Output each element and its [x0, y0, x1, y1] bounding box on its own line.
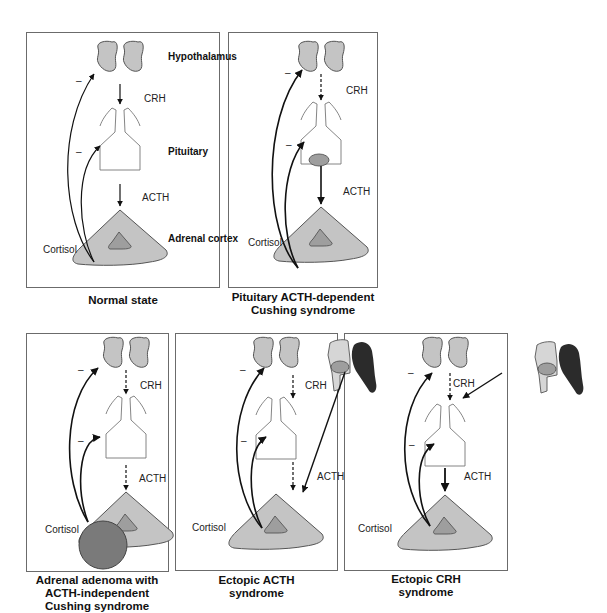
- svg-text:Cortisol: Cortisol: [192, 522, 226, 533]
- ectopic-crh-tumor-shape: [535, 342, 583, 395]
- hypothalamus-shape: [97, 41, 143, 71]
- diagram-normal-state: – – Hypothalamus CRH Pituitary ACTH Adre…: [43, 41, 238, 265]
- svg-text:ACTH: ACTH: [464, 471, 491, 482]
- svg-text:–: –: [285, 67, 291, 78]
- ectopic-tumor-shape: [328, 340, 376, 393]
- svg-text:Cortisol: Cortisol: [248, 237, 282, 248]
- svg-text:–: –: [409, 439, 415, 450]
- svg-text:Hypothalamus: Hypothalamus: [168, 51, 237, 62]
- adrenal-cortex-shape: [73, 210, 167, 265]
- svg-text:CRH: CRH: [346, 85, 368, 96]
- caption-adrenal-adenoma: Adrenal adenoma with ACTH-independent Cu…: [22, 574, 172, 613]
- diagram-ectopic-acth: – – CRH ACTH Cortisol: [192, 337, 376, 549]
- svg-text:ACTH: ACTH: [343, 186, 370, 197]
- svg-text:CRH: CRH: [453, 378, 475, 389]
- svg-text:ACTH: ACTH: [317, 471, 344, 482]
- caption-ectopic-acth: Ectopic ACTH syndrome: [175, 574, 338, 600]
- svg-text:–: –: [241, 435, 247, 446]
- svg-text:CRH: CRH: [140, 380, 162, 391]
- diagram-ectopic-crh: – – CRH ACTH Cortisol: [358, 337, 583, 550]
- svg-text:–: –: [286, 139, 292, 150]
- diagram-adrenal-adenoma: – – CRH ACTH Cortisol: [45, 337, 173, 569]
- svg-text:ACTH: ACTH: [142, 192, 169, 203]
- caption-ectopic-crh: Ectopic CRH syndrome: [344, 573, 508, 599]
- svg-text:Adrenal cortex: Adrenal cortex: [168, 233, 238, 244]
- diagram-pituitary-cushing: – – CRH ACTH Cortisol: [248, 41, 370, 268]
- pituitary-adenoma-shape: [309, 154, 329, 166]
- svg-text:CRH: CRH: [305, 380, 327, 391]
- svg-text:–: –: [408, 367, 414, 378]
- svg-text:–: –: [76, 146, 82, 157]
- svg-text:–: –: [76, 75, 82, 86]
- svg-text:ACTH: ACTH: [139, 473, 166, 484]
- svg-text:Cortisol: Cortisol: [358, 523, 392, 534]
- pituitary-shape: [100, 108, 140, 170]
- adrenal-adenoma-shape: [79, 521, 127, 569]
- svg-text:Pituitary: Pituitary: [168, 146, 208, 157]
- svg-text:–: –: [78, 435, 84, 446]
- caption-pituitary-cushing: Pituitary ACTH-dependent Cushing syndrom…: [218, 291, 388, 317]
- svg-text:Cortisol: Cortisol: [45, 524, 79, 535]
- svg-text:–: –: [240, 364, 246, 375]
- svg-text:Cortisol: Cortisol: [43, 244, 77, 255]
- caption-normal-state: Normal state: [26, 294, 220, 307]
- svg-text:–: –: [78, 364, 84, 375]
- svg-text:CRH: CRH: [144, 93, 166, 104]
